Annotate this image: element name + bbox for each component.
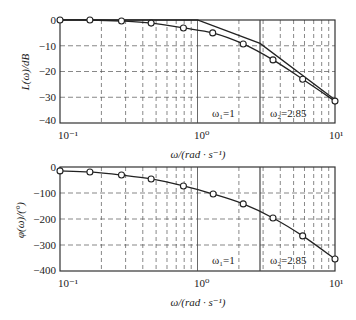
xtick-1e1: 10¹ bbox=[329, 129, 343, 141]
bode-plot: 0 −10 −20 −30 −40 L(ω)/dB ω₁=1 ω₂=2.85 1… bbox=[0, 0, 356, 320]
phase-plot: 0 −100 −200 −300 −400 φ(ω)/(°) ω₁=1 ω₂=2… bbox=[14, 161, 343, 309]
data-point-marker bbox=[148, 20, 154, 26]
w2-annotation: ω₂=2.85 bbox=[270, 107, 307, 119]
magnitude-plot: 0 −10 −20 −30 −40 L(ω)/dB ω₁=1 ω₂=2.85 1… bbox=[19, 14, 343, 161]
phase-ytick: −300 bbox=[33, 239, 56, 251]
data-point-marker bbox=[57, 17, 63, 23]
phase-ytick: −400 bbox=[33, 264, 56, 276]
phase-y-ticks: 0 −100 −200 −300 −400 bbox=[33, 161, 56, 276]
data-point-marker bbox=[270, 57, 276, 63]
phase-ytick: −200 bbox=[33, 213, 56, 225]
data-point-marker bbox=[240, 201, 246, 207]
mag-ytick: −20 bbox=[39, 65, 57, 77]
data-point-marker bbox=[300, 233, 306, 239]
phase-y-axis-label: φ(ω)/(°) bbox=[14, 202, 27, 238]
data-point-marker bbox=[180, 25, 186, 31]
data-point-marker bbox=[270, 215, 276, 221]
xtick-1e0-phase: 10⁰ bbox=[194, 277, 210, 289]
data-point-marker bbox=[148, 176, 154, 182]
phase-ytick: 0 bbox=[51, 161, 57, 173]
mag-ytick: 0 bbox=[51, 14, 57, 26]
phase-x-axis-label: ω/(rad · s⁻¹) bbox=[170, 296, 225, 309]
data-point-marker bbox=[118, 18, 124, 24]
data-point-marker bbox=[210, 191, 216, 197]
data-point-marker bbox=[118, 172, 124, 178]
data-point-marker bbox=[240, 41, 246, 47]
xtick-1e-1-phase: 10⁻¹ bbox=[58, 277, 78, 289]
data-point-marker bbox=[300, 76, 306, 82]
data-point-marker bbox=[332, 256, 338, 262]
xtick-1e0: 10⁰ bbox=[194, 129, 210, 141]
xtick-1e1-phase: 10¹ bbox=[329, 277, 343, 289]
data-point-marker bbox=[87, 17, 93, 23]
data-point-marker bbox=[180, 183, 186, 189]
data-point-marker bbox=[210, 30, 216, 36]
mag-y-axis-label: L(ω)/dB bbox=[19, 53, 32, 91]
magnitude-y-ticks: 0 −10 −20 −30 −40 bbox=[39, 14, 57, 126]
w1-annotation: ω₁=1 bbox=[212, 107, 235, 119]
mag-x-axis-label: ω/(rad · s⁻¹) bbox=[170, 148, 225, 161]
data-point-marker bbox=[87, 169, 93, 175]
data-point-marker bbox=[57, 168, 63, 174]
mag-ytick: −30 bbox=[39, 91, 57, 103]
data-point-marker bbox=[332, 98, 338, 104]
mag-ytick: −40 bbox=[39, 114, 57, 126]
mag-ytick: −10 bbox=[39, 40, 57, 52]
xtick-1e-1: 10⁻¹ bbox=[58, 129, 78, 141]
w1-annotation-phase: ω₁=1 bbox=[212, 254, 235, 266]
w2-annotation-phase: ω₂=2.85 bbox=[270, 254, 307, 266]
phase-ytick: −100 bbox=[33, 187, 56, 199]
